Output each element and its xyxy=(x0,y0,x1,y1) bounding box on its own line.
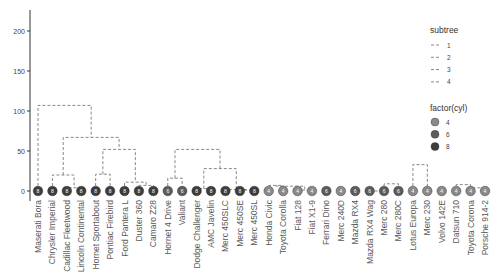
dendrogram-branch xyxy=(38,105,91,191)
legend-subtree-title: subtree xyxy=(430,25,459,35)
leaf-label: Fiat X1-9 xyxy=(307,200,317,235)
leaf-node-cyl-label: 6 xyxy=(181,188,184,194)
leaf-node-cyl-label: 8 xyxy=(123,188,126,194)
leaf-label: Camaro Z28 xyxy=(148,200,158,248)
leaf-node-cyl-label: 6 xyxy=(325,188,328,194)
legend-cyl-key xyxy=(431,130,439,138)
leaf-node-cyl-label: 4 xyxy=(455,188,458,194)
dendrogram-branch xyxy=(175,149,220,178)
leaf-node-cyl-label: 4 xyxy=(282,188,285,194)
leaf-node-cyl-label: 4 xyxy=(339,188,342,194)
leaf-label: Duster 360 xyxy=(134,200,144,242)
leaf-node-cyl-label: 8 xyxy=(224,188,227,194)
leaf-node-cyl-label: 8 xyxy=(37,188,40,194)
leaf-label: Merc 280 xyxy=(379,200,389,236)
leaf-label: Merc 280C xyxy=(393,200,403,242)
legend-cyl-key xyxy=(431,118,439,126)
leaf-node-cyl-label: 4 xyxy=(296,188,299,194)
legend-cyl-label: 4 xyxy=(446,119,450,126)
legend-cyl-title: factor(cyl) xyxy=(430,103,467,113)
leaf-node-cyl-label: 4 xyxy=(267,188,270,194)
leaf-node-cyl-label: 8 xyxy=(238,188,241,194)
legend-cyl-label: 6 xyxy=(446,131,450,138)
dendrogram-branch xyxy=(103,149,135,182)
leaf-node-cyl-label: 4 xyxy=(412,188,415,194)
leaf-node-cyl-label: 8 xyxy=(195,188,198,194)
y-tick-label: 0 xyxy=(21,188,25,195)
leaf-node-cyl-label: 8 xyxy=(138,188,141,194)
leaf-node-cyl-label: 6 xyxy=(354,188,357,194)
dendrogram-branches xyxy=(38,105,485,191)
leaf-label: Merc 450SL xyxy=(249,200,259,246)
leaf-label: Merc 230 xyxy=(422,200,432,236)
dendrogram-branch xyxy=(204,169,236,190)
leaf-node-cyl-label: 4 xyxy=(484,188,487,194)
leaf-node-cyl-label: 6 xyxy=(166,188,169,194)
leaf-label: Valiant xyxy=(177,199,187,225)
leaf-node-cyl-label: 8 xyxy=(80,188,83,194)
leaf-label: Pontiac Firebird xyxy=(105,200,115,260)
leaf-labels: Maserati BoraChrysler ImperialCadillac F… xyxy=(33,199,490,272)
leaf-label: AMC Javelin xyxy=(206,200,216,248)
legend-subtree-label: 2 xyxy=(447,54,451,61)
legend-cyl: factor(cyl) 468 xyxy=(430,103,467,151)
legend-cyl-label: 8 xyxy=(446,143,450,150)
leaf-node-cyl-label: 4 xyxy=(426,188,429,194)
leaf-label: Hornet Sportabout xyxy=(91,199,101,269)
leaf-node-cyl-label: 6 xyxy=(383,188,386,194)
leaf-node-cyl-label: 8 xyxy=(51,188,54,194)
leaf-label: Porsche 914-2 xyxy=(480,200,490,256)
leaf-label: Toyota Corolla xyxy=(278,200,288,255)
leaf-label: Ferrari Dino xyxy=(321,200,331,245)
leaf-label: Mazda RX4 xyxy=(350,200,360,245)
leaf-node-cyl-label: 8 xyxy=(94,188,97,194)
leaf-node-cyl-label: 8 xyxy=(152,188,155,194)
legend-subtree-label: 4 xyxy=(447,78,451,85)
leaf-label: Cadillac Fleetwood xyxy=(62,200,72,272)
leaf-label: Merc 450SLC xyxy=(220,200,230,252)
leaf-node-cyl-label: 8 xyxy=(65,188,68,194)
leaf-label: Ford Pantera L xyxy=(120,200,130,257)
leaf-label: Chrysler Imperial xyxy=(47,200,57,264)
leaf-node-cyl-label: 4 xyxy=(440,188,443,194)
leaf-label: Volvo 142E xyxy=(437,200,447,243)
dendrogram-chart: 050100150200 888888888668888844446466664… xyxy=(0,0,502,277)
leaf-node-cyl-label: 8 xyxy=(210,188,213,194)
legend-cyl-key xyxy=(431,143,439,151)
leaf-label: Honda Civic xyxy=(264,199,274,246)
legend-subtree: subtree 1234 xyxy=(430,25,459,85)
leaf-nodes: 88888888866888884444646666444444 xyxy=(33,186,490,196)
legend-subtree-label: 1 xyxy=(447,42,451,49)
leaf-label: Dodge Challenger xyxy=(192,200,202,269)
leaf-label: Lincoln Continental xyxy=(76,200,86,272)
leaf-label: Hornet 4 Drive xyxy=(163,200,173,255)
leaf-node-cyl-label: 6 xyxy=(368,188,371,194)
leaf-node-cyl-label: 4 xyxy=(469,188,472,194)
y-tick-label: 150 xyxy=(13,68,25,75)
leaf-label: Mazda RX4 Wag xyxy=(365,200,375,264)
leaf-label: Fiat 128 xyxy=(293,200,303,231)
y-tick-label: 200 xyxy=(13,28,25,35)
leaf-label: Maserati Bora xyxy=(33,200,43,253)
leaf-node-cyl-label: 8 xyxy=(253,188,256,194)
leaf-node-cyl-label: 4 xyxy=(311,188,314,194)
y-tick-label: 100 xyxy=(13,108,25,115)
legend-subtree-label: 3 xyxy=(447,66,451,73)
leaf-label: Lotus Europa xyxy=(408,200,418,251)
dendrogram-branch xyxy=(63,137,119,175)
leaf-label: Datsun 710 xyxy=(451,200,461,244)
leaf-label: Merc 240D xyxy=(336,200,346,242)
leaf-node-cyl-label: 8 xyxy=(109,188,112,194)
leaf-node-cyl-label: 6 xyxy=(397,188,400,194)
leaf-label: Merc 450SE xyxy=(235,200,245,247)
y-axis-ticks: 050100150200 xyxy=(13,28,30,195)
leaf-label: Toyota Corona xyxy=(466,200,476,256)
y-tick-label: 50 xyxy=(17,148,25,155)
